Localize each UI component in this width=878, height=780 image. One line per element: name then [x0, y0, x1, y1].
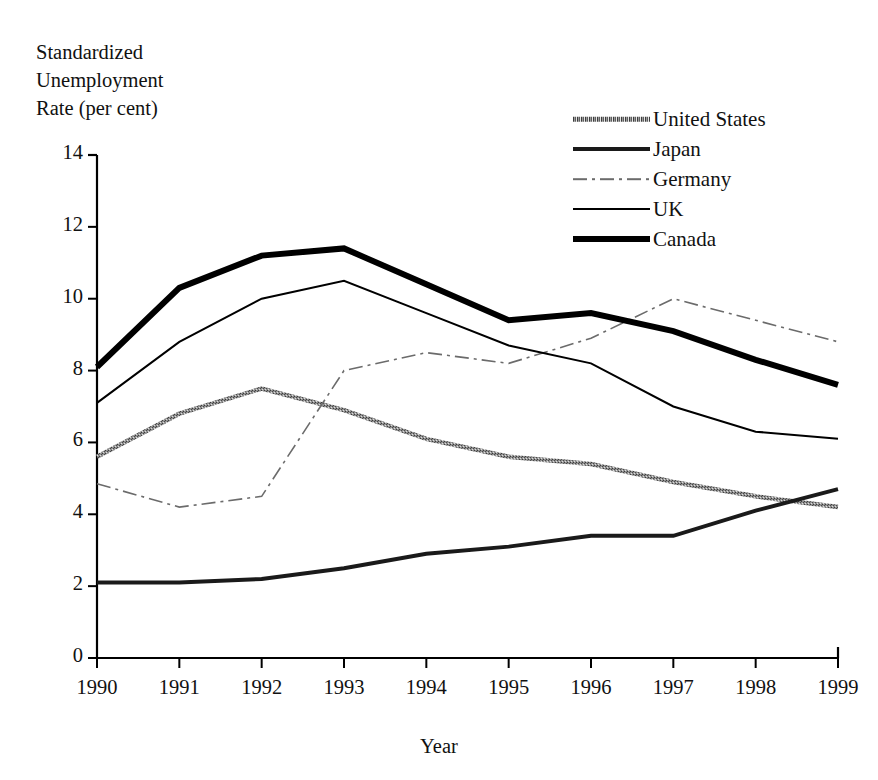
- legend-swatch-line: [573, 178, 650, 180]
- legend-swatch-line: [573, 208, 650, 210]
- legend-entry-label: UK: [650, 199, 683, 220]
- x-axis-title: Year: [0, 735, 878, 758]
- legend-entry-label: Canada: [650, 229, 716, 250]
- legend-line-swatch: [573, 172, 650, 186]
- legend-line-swatch: [573, 232, 650, 246]
- x-tick-label: 1990: [52, 676, 142, 699]
- unemployment-rate-line-chart: Standardized Unemployment Rate (per cent…: [0, 0, 878, 780]
- y-tick-label: 8: [37, 357, 83, 380]
- x-tick-label: 1998: [711, 676, 801, 699]
- legend-line-swatch: [573, 112, 650, 126]
- series-line-united-states: [97, 389, 838, 508]
- legend-entry-germany[interactable]: Germany: [573, 164, 873, 194]
- legend-entry-united-states[interactable]: United States: [573, 104, 873, 134]
- x-tick-label: 1992: [217, 676, 307, 699]
- x-tick-label: 1995: [464, 676, 554, 699]
- x-tick-label: 1999: [793, 676, 878, 699]
- series-lines: [97, 248, 838, 582]
- legend-swatch-line: [573, 117, 650, 122]
- series-line-canada: [97, 248, 838, 385]
- legend-swatch-line: [573, 236, 650, 242]
- legend-entry-label: Germany: [650, 169, 731, 190]
- x-tick-label: 1991: [134, 676, 224, 699]
- y-tick-label: 6: [37, 428, 83, 451]
- legend-entry-label: Japan: [650, 139, 701, 160]
- chart-legend: United StatesJapanGermanyUKCanada: [573, 104, 873, 254]
- y-tick-label: 12: [37, 213, 83, 236]
- legend-line-swatch: [573, 202, 650, 216]
- legend-swatch-line: [573, 147, 650, 151]
- x-tick-label: 1993: [299, 676, 389, 699]
- legend-entry-canada[interactable]: Canada: [573, 224, 873, 254]
- y-tick-label: 4: [37, 500, 83, 523]
- legend-line-swatch: [573, 142, 650, 156]
- y-tick-label: 14: [37, 141, 83, 164]
- y-tick-label: 2: [37, 572, 83, 595]
- x-tick-label: 1997: [628, 676, 718, 699]
- legend-entry-label: United States: [650, 109, 766, 130]
- y-tick-label: 0: [37, 644, 83, 667]
- x-tick-label: 1994: [381, 676, 471, 699]
- legend-entry-japan[interactable]: Japan: [573, 134, 873, 164]
- x-tick-label: 1996: [546, 676, 636, 699]
- y-tick-label: 10: [37, 285, 83, 308]
- legend-entry-uk[interactable]: UK: [573, 194, 873, 224]
